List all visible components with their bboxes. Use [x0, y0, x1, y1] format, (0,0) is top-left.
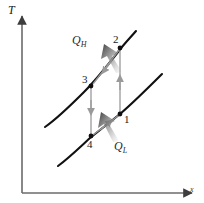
diagram-canvas — [0, 0, 204, 203]
heat-rejected-symbol: Q — [72, 33, 81, 47]
heat-absorbed-symbol: Q — [114, 139, 123, 153]
state-point-1-dot — [118, 112, 123, 117]
heat-rejected-subscript: H — [81, 40, 87, 49]
state-point-3-dot — [89, 84, 94, 89]
state-point-1-label: 1 — [124, 114, 130, 125]
axes-group — [22, 16, 192, 193]
state-point-2-dot — [118, 46, 123, 51]
state-point-3-label: 3 — [82, 74, 88, 85]
temperature-axis-label: T — [8, 4, 15, 16]
entropy-axis-label: x — [190, 186, 194, 194]
heat-absorbed-subscript: L — [123, 146, 127, 155]
state-point-4-label: 4 — [87, 139, 93, 150]
heat-absorbed-label: QL — [114, 140, 127, 155]
heat-flow-arrows-group — [98, 44, 122, 142]
heat-rejected-label: QH — [72, 34, 86, 49]
ts-diagram-figure: T x 1 2 3 4 QH QL — [0, 0, 204, 203]
state-point-2-label: 2 — [113, 34, 119, 45]
